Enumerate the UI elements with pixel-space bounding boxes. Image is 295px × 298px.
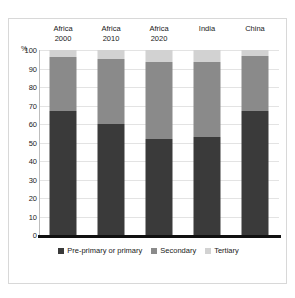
bar-segment[interactable] (98, 59, 125, 124)
bar-slot (183, 50, 231, 235)
x-axis-baseline (38, 235, 281, 238)
category-headers: Africa2000Africa2010Africa2020IndiaChina (39, 23, 279, 49)
bar-segment[interactable] (194, 50, 221, 62)
category-header-line1: India (199, 24, 215, 33)
category-header: Africa2000 (39, 23, 87, 49)
category-header-line2: 2020 (135, 34, 183, 44)
legend-label: Tertiary (214, 247, 239, 255)
y-axis-tick-label: 80 (11, 83, 37, 92)
legend-swatch-icon (58, 248, 64, 254)
category-header-line2: 2010 (87, 34, 135, 44)
chart-figure: % Africa2000Africa2010Africa2020IndiaChi… (0, 0, 295, 298)
category-header: Africa2020 (135, 23, 183, 49)
bar-slot (231, 50, 279, 235)
legend-swatch-icon (205, 248, 211, 254)
bar-segment[interactable] (98, 50, 125, 59)
y-axis-tick-label: 20 (11, 194, 37, 203)
bar-segment[interactable] (98, 124, 125, 235)
y-axis-tick-label: 40 (11, 157, 37, 166)
y-axis-tick-label: 100 (11, 46, 37, 55)
category-header-line1: China (245, 24, 265, 33)
category-header: China (231, 23, 279, 49)
chart-area: % Africa2000Africa2010Africa2020IndiaChi… (9, 19, 288, 285)
stacked-bar[interactable] (50, 50, 77, 235)
bar-slot (87, 50, 135, 235)
bar-slot (135, 50, 183, 235)
category-header-line2: 2000 (39, 34, 87, 44)
stacked-bar[interactable] (194, 50, 221, 235)
legend-item[interactable]: Secondary (151, 247, 196, 255)
y-axis-tick-label: 30 (11, 175, 37, 184)
bar-segment[interactable] (194, 62, 221, 137)
legend-label: Pre-primary or primary (67, 247, 142, 255)
category-header: Africa2010 (87, 23, 135, 49)
y-axis-tick-label: 60 (11, 120, 37, 129)
bar-segment[interactable] (50, 50, 77, 57)
bar-segment[interactable] (146, 50, 173, 62)
stacked-bar[interactable] (146, 50, 173, 235)
bar-segment[interactable] (146, 139, 173, 235)
bar-segment[interactable] (146, 62, 173, 139)
bar-segment[interactable] (50, 57, 77, 111)
chart-legend: Pre-primary or primarySecondaryTertiary (9, 247, 288, 255)
y-axis-tick-label: 0 (11, 231, 37, 240)
legend-item[interactable]: Pre-primary or primary (58, 247, 142, 255)
caption-remnant (0, 0, 295, 12)
legend-swatch-icon (151, 248, 157, 254)
plot-area (39, 50, 279, 235)
bar-segment[interactable] (194, 137, 221, 235)
category-header-line1: Africa (149, 24, 168, 33)
y-axis-tick-label: 90 (11, 64, 37, 73)
y-axis-ticks: 1009080706050403020100 (9, 50, 37, 235)
legend-item[interactable]: Tertiary (205, 247, 239, 255)
bar-segment[interactable] (50, 111, 77, 235)
category-header: India (183, 23, 231, 49)
category-header-line1: Africa (53, 24, 72, 33)
legend-label: Secondary (160, 247, 196, 255)
chart-frame: % Africa2000Africa2010Africa2020IndiaChi… (8, 18, 287, 284)
y-axis-tick-label: 10 (11, 212, 37, 221)
bar-slot (39, 50, 87, 235)
bar-segment[interactable] (242, 111, 269, 235)
stacked-bar[interactable] (98, 50, 125, 235)
bar-group (39, 50, 279, 235)
y-axis-tick-label: 50 (11, 138, 37, 147)
bar-segment[interactable] (242, 56, 269, 111)
category-header-line1: Africa (101, 24, 120, 33)
y-axis-tick-label: 70 (11, 101, 37, 110)
stacked-bar[interactable] (242, 50, 269, 235)
